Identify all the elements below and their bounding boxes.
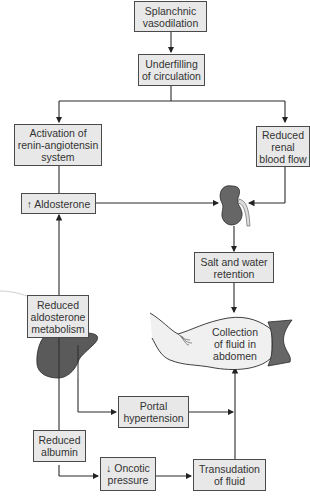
node-splanchnic-vasodilation: Splanchnic vasodilation — [134, 1, 207, 32]
node-activation-of-renin-angiotensin-system: Activation of renin-angiotensin system — [14, 124, 102, 166]
node-transudation-of-fluid: Transudation of fluid — [193, 459, 266, 491]
node-text: albumin — [41, 446, 78, 458]
node-reduced-albumin: Reduced albumin — [33, 430, 86, 462]
node-reduced-renal-blood-flow: Reduced renal blood flow — [256, 126, 310, 167]
node-decreased-oncotic-pressure: ↓ Oncotic pressure — [100, 457, 156, 491]
node-text: metabolism — [31, 323, 85, 335]
node-text: ↑ Aldosterone — [27, 198, 91, 210]
node-text: Collection — [200, 326, 270, 338]
node-text: Salt and water — [200, 256, 267, 268]
node-text: renal — [271, 141, 294, 153]
node-text: Transudation — [199, 463, 260, 475]
node-text: Splanchnic — [145, 5, 196, 17]
node-text: abdomen — [200, 350, 270, 362]
node-text: vasodilation — [143, 17, 198, 29]
node-salt-and-water-retention: Salt and water retention — [194, 252, 274, 283]
node-text: Underfilling — [145, 58, 198, 70]
node-portal-hypertension: Portal hypertension — [118, 396, 189, 428]
node-text: aldosterone — [31, 311, 86, 323]
node-text: Activation of — [29, 127, 86, 139]
node-text: pressure — [108, 474, 149, 486]
node-text: retention — [214, 268, 255, 280]
node-text: hypertension — [123, 412, 183, 424]
kidney-icon — [220, 186, 250, 226]
node-reduced-aldosterone-metabolism: Reduced aldosterone metabolism — [27, 295, 89, 338]
node-collection-of-fluid-in-abdomen: Collection of fluid in abdomen — [200, 326, 270, 362]
node-underfilling-of-circulation: Underfilling of circulation — [138, 54, 205, 86]
node-text: renin-angiotensin — [18, 139, 99, 151]
node-text: of fluid — [214, 475, 245, 487]
node-text: Reduced — [37, 299, 79, 311]
node-text: Reduced — [262, 129, 304, 141]
node-text: Reduced — [38, 434, 80, 446]
node-text: of fluid in — [200, 338, 270, 350]
node-text: blood flow — [259, 153, 306, 165]
node-text: of circulation — [142, 70, 201, 82]
node-text: ↓ Oncotic — [106, 462, 150, 474]
node-increased-aldosterone: ↑ Aldosterone — [21, 193, 96, 214]
node-text: system — [41, 151, 74, 163]
node-text: Portal — [140, 400, 167, 412]
